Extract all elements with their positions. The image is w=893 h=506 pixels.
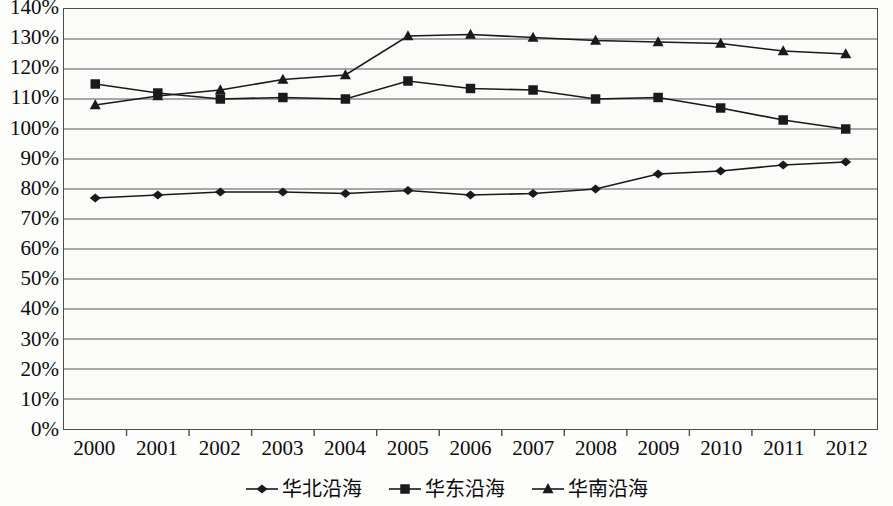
series-1 bbox=[90, 158, 851, 203]
data-point bbox=[341, 94, 350, 103]
series-layer bbox=[64, 9, 877, 429]
data-point bbox=[340, 189, 351, 198]
plot-area bbox=[63, 8, 878, 430]
legend-marker-diamond-icon bbox=[245, 481, 279, 497]
data-point bbox=[841, 124, 850, 133]
data-point bbox=[278, 93, 287, 102]
y-axis-tick-label: 140% bbox=[1, 0, 59, 18]
data-point bbox=[277, 188, 288, 197]
x-axis-tick-label: 2005 bbox=[387, 436, 429, 460]
x-axis-tick-label: 2004 bbox=[324, 436, 366, 460]
legend-marker-triangle-icon bbox=[531, 481, 565, 497]
data-point bbox=[715, 167, 726, 176]
data-point bbox=[215, 188, 226, 197]
data-point bbox=[653, 170, 664, 179]
y-axis-tick-label: 50% bbox=[1, 268, 59, 289]
data-point bbox=[216, 94, 225, 103]
data-point bbox=[466, 84, 475, 93]
data-point bbox=[90, 194, 101, 203]
y-axis: 140%130%120%110%100%90%80%70%60%50%40%30… bbox=[0, 0, 59, 506]
data-point bbox=[528, 189, 539, 198]
legend-label: 华东沿海 bbox=[425, 479, 505, 499]
y-axis-tick-label: 20% bbox=[1, 359, 59, 380]
y-axis-tick-label: 130% bbox=[1, 27, 59, 48]
y-axis-tick-label: 80% bbox=[1, 178, 59, 199]
legend-label: 华南沿海 bbox=[568, 479, 648, 499]
y-axis-tick-label: 40% bbox=[1, 298, 59, 319]
data-point bbox=[591, 94, 600, 103]
data-point bbox=[778, 161, 789, 170]
y-axis-tick-label: 90% bbox=[1, 148, 59, 169]
x-axis: 2000200120022003200420052006200720082009… bbox=[63, 436, 878, 466]
x-axis-tick-label: 2000 bbox=[73, 436, 115, 460]
data-point bbox=[528, 85, 537, 94]
x-axis-tick-label: 2010 bbox=[700, 436, 742, 460]
y-axis-tick-label: 60% bbox=[1, 238, 59, 259]
data-point bbox=[152, 191, 163, 200]
x-axis-tick-label: 2006 bbox=[450, 436, 492, 460]
x-axis-tick-label: 2002 bbox=[199, 436, 241, 460]
legend-item-3[interactable]: 华南沿海 bbox=[531, 479, 648, 499]
x-axis-tick-label: 2007 bbox=[512, 436, 554, 460]
x-axis-tick-label: 2008 bbox=[575, 436, 617, 460]
data-point bbox=[465, 29, 476, 39]
y-axis-tick-label: 110% bbox=[1, 87, 59, 108]
data-point bbox=[402, 186, 413, 195]
data-point bbox=[340, 69, 351, 79]
y-axis-tick-label: 70% bbox=[1, 208, 59, 229]
legend-item-1[interactable]: 华北沿海 bbox=[245, 479, 362, 499]
x-axis-tick-label: 2001 bbox=[136, 436, 178, 460]
chart-legend: 华北沿海华东沿海华南沿海 bbox=[0, 472, 893, 506]
data-point bbox=[403, 76, 412, 85]
data-point bbox=[590, 185, 601, 194]
x-axis-tick-label: 2012 bbox=[826, 436, 868, 460]
data-point bbox=[778, 115, 787, 124]
y-axis-tick-label: 0% bbox=[1, 419, 59, 440]
x-axis-tick-label: 2003 bbox=[261, 436, 303, 460]
legend-label: 华北沿海 bbox=[282, 479, 362, 499]
data-point bbox=[91, 79, 100, 88]
y-axis-tick-label: 10% bbox=[1, 389, 59, 410]
legend-item-2[interactable]: 华东沿海 bbox=[388, 479, 505, 499]
data-point bbox=[840, 158, 851, 167]
data-point bbox=[465, 191, 476, 200]
line-chart: 140%130%120%110%100%90%80%70%60%50%40%30… bbox=[0, 0, 893, 506]
series-2 bbox=[91, 76, 851, 133]
x-axis-tick-label: 2009 bbox=[638, 436, 680, 460]
y-axis-tick-label: 100% bbox=[1, 118, 59, 139]
legend-marker-square-icon bbox=[388, 481, 422, 497]
y-axis-tick-label: 120% bbox=[1, 57, 59, 78]
data-point bbox=[653, 93, 662, 102]
data-point bbox=[716, 103, 725, 112]
series-line bbox=[95, 35, 845, 106]
x-axis-tick-label: 2011 bbox=[763, 436, 804, 460]
y-axis-tick-label: 30% bbox=[1, 329, 59, 350]
